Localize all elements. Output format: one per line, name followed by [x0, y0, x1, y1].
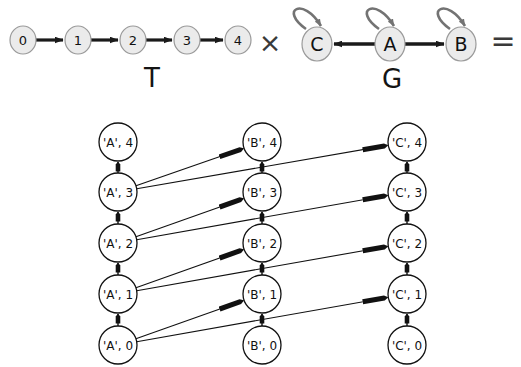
graph-G-self-loops — [294, 9, 465, 29]
product-graph-node[interactable]: 'B', 2 — [243, 224, 281, 262]
product-graph-node-label: 'A', 4 — [103, 136, 133, 150]
product-graph-node[interactable]: 'A', 4 — [99, 123, 137, 161]
product-graph-node-label: 'B', 4 — [247, 136, 277, 150]
product-graph-diagonal-edge — [136, 301, 243, 339]
product-graph-node[interactable]: 'A', 3 — [99, 173, 137, 211]
graph-t-node[interactable]: 0 — [10, 26, 36, 54]
graph-g-self-loop — [438, 9, 465, 29]
product-graph-node-label: 'A', 1 — [103, 288, 133, 302]
graph-g-node-label: C — [310, 33, 323, 55]
product-graph-node[interactable]: 'A', 0 — [99, 326, 137, 364]
product-graph-node-label: 'C', 2 — [392, 237, 422, 251]
graph-g-node-label: A — [384, 33, 397, 55]
product-graph-node[interactable]: 'A', 2 — [99, 224, 137, 262]
graph-t-node-label: 2 — [129, 33, 137, 48]
product-graph-node-label: 'B', 2 — [247, 237, 277, 251]
product-graph-node-label: 'C', 4 — [392, 136, 422, 150]
graph-g-node-label: B — [454, 33, 467, 55]
product-graph-node-label: 'A', 0 — [103, 339, 133, 353]
product-graph-node-label: 'C', 0 — [392, 339, 422, 353]
product-graph-node[interactable]: 'C', 0 — [388, 326, 426, 364]
product-graph-node[interactable]: 'C', 4 — [388, 123, 426, 161]
product-graph-nodes: 'A', 4'A', 3'A', 2'A', 1'A', 0'B', 4'B',… — [99, 123, 426, 364]
graph-g-self-loop — [294, 9, 321, 29]
product-graph-node[interactable]: 'C', 3 — [388, 173, 426, 211]
product-graph-node-label: 'C', 1 — [392, 288, 422, 302]
graph-g-node[interactable]: B — [446, 27, 476, 61]
product-graph-node-label: 'A', 2 — [103, 237, 133, 251]
graph-t-label: T — [143, 63, 160, 93]
product-graph-node-label: 'A', 3 — [103, 186, 133, 200]
figure-canvas: 01234 CAB 'A', 4'A', 3'A', 2'A', 1'A', 0… — [0, 0, 521, 367]
product-graph-node-label: 'B', 3 — [247, 186, 277, 200]
equals-operator-symbol: = — [490, 23, 515, 58]
product-graph-node-label: 'B', 1 — [247, 288, 277, 302]
graph-g-node[interactable]: C — [302, 27, 332, 61]
graph-t-node[interactable]: 1 — [65, 26, 91, 54]
product-graph-node-label: 'B', 0 — [247, 339, 277, 353]
product-graph-diagonal-edge — [136, 199, 243, 237]
product-graph-diagram: 01234 CAB 'A', 4'A', 3'A', 2'A', 1'A', 0… — [0, 0, 521, 367]
graph-t-node[interactable]: 3 — [174, 26, 200, 54]
product-graph-node[interactable]: 'A', 1 — [99, 275, 137, 313]
graph-g-self-loop — [367, 9, 394, 29]
graph-t-node-label: 1 — [74, 33, 82, 48]
multiplication-operator-symbol: × — [259, 27, 282, 58]
graph-G-nodes: CAB — [302, 27, 476, 61]
graph-g-label: G — [382, 64, 402, 94]
product-graph-node[interactable]: 'B', 4 — [243, 123, 281, 161]
product-graph-diagonal-edge — [136, 149, 243, 186]
product-graph-node[interactable]: 'B', 1 — [243, 275, 281, 313]
product-graph-node[interactable]: 'B', 3 — [243, 173, 281, 211]
graph-t-node[interactable]: 4 — [225, 26, 251, 54]
product-graph-node[interactable]: 'C', 1 — [388, 275, 426, 313]
product-graph-node[interactable]: 'B', 0 — [243, 326, 281, 364]
graph-t-node-label: 4 — [234, 33, 242, 48]
product-graph-node-label: 'C', 3 — [392, 186, 422, 200]
graph-g-node[interactable]: A — [375, 27, 405, 61]
graph-t-node-label: 0 — [19, 33, 27, 48]
product-graph-diagonal-edge — [136, 250, 243, 288]
graph-t-node-label: 3 — [183, 33, 191, 48]
graph-t-node[interactable]: 2 — [120, 26, 146, 54]
product-graph-node[interactable]: 'C', 2 — [388, 224, 426, 262]
